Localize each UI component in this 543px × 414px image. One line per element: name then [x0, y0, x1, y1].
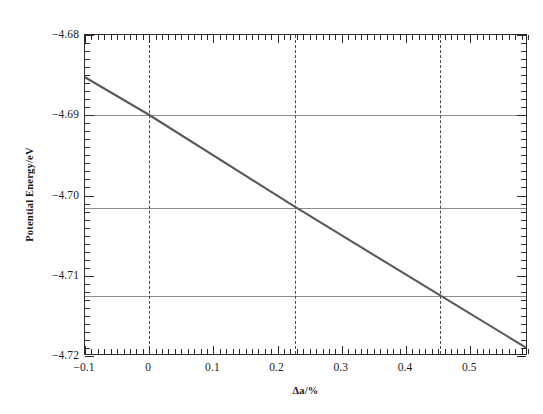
y-tick-minor [85, 212, 90, 213]
y-tick-minor [85, 67, 90, 68]
y-tick-minor [85, 51, 90, 52]
x-tick-minor [483, 349, 484, 354]
x-tick-minor-top [207, 35, 208, 40]
x-tick-minor-top [220, 35, 221, 40]
y-tick-minor-right [521, 67, 526, 68]
y-tick-minor [85, 220, 90, 221]
y-tick-minor [85, 260, 90, 261]
x-tick-minor [445, 349, 446, 354]
x-tick-minor-top [258, 35, 259, 40]
y-tick-major-right [517, 276, 526, 277]
x-tick-minor-top [489, 35, 490, 40]
x-tick-minor [477, 349, 478, 354]
x-tick-major-top [470, 35, 471, 43]
y-tick-minor-right [521, 139, 526, 140]
x-tick-minor [290, 349, 291, 354]
x-tick-minor [400, 349, 401, 354]
x-tick-minor [451, 349, 452, 354]
y-tick-minor-right [521, 236, 526, 237]
x-tick-minor-top [393, 35, 394, 40]
x-tick-minor [91, 349, 92, 354]
x-tick-minor-top [162, 35, 163, 40]
x-tick-minor-top [246, 35, 247, 40]
x-tick-minor-top [91, 35, 92, 40]
x-tick-minor-top [528, 35, 529, 40]
x-tick-minor [252, 349, 253, 354]
y-tick-minor [85, 107, 90, 108]
x-tick-minor [489, 349, 490, 354]
x-tick-minor-top [310, 35, 311, 40]
x-tick-minor [130, 349, 131, 354]
y-tick-minor-right [521, 228, 526, 229]
x-tick-minor [387, 349, 388, 354]
x-tick-major [213, 346, 214, 354]
y-tick-minor [85, 99, 90, 100]
x-tick-minor-top [419, 35, 420, 40]
x-tick-minor [207, 349, 208, 354]
y-tick-minor-right [521, 83, 526, 84]
y-tick-minor-right [521, 179, 526, 180]
y-tick-minor-right [521, 107, 526, 108]
y-tick-minor [85, 163, 90, 164]
y-tick-minor [85, 300, 90, 301]
x-tick-minor-top [297, 35, 298, 40]
x-tick-minor [329, 349, 330, 354]
x-tick-label: 0.3 [333, 361, 348, 373]
y-tick-minor-right [521, 75, 526, 76]
x-tick-minor-top [233, 35, 234, 40]
y-tick-minor [85, 316, 90, 317]
y-tick-minor [85, 268, 90, 269]
x-tick-minor [111, 349, 112, 354]
y-tick-minor-right [521, 91, 526, 92]
x-tick-minor-top [188, 35, 189, 40]
x-tick-minor [367, 349, 368, 354]
x-tick-minor [457, 349, 458, 354]
x-axis-title: Δa/% [84, 385, 527, 396]
x-tick-major-top [213, 35, 214, 43]
x-tick-minor-top [432, 35, 433, 40]
chart-screenshot: Potential Energy/eV −4.72−4.71−4.70−4.69… [0, 0, 543, 414]
y-tick-minor-right [521, 308, 526, 309]
x-tick-minor-top [477, 35, 478, 40]
x-tick-minor-top [136, 35, 137, 40]
x-tick-minor [316, 349, 317, 354]
y-tick-major [85, 356, 94, 357]
y-tick-minor [85, 252, 90, 253]
y-tick-minor [85, 292, 90, 293]
x-tick-minor-top [400, 35, 401, 40]
y-tick-minor-right [521, 59, 526, 60]
x-tick-minor [136, 349, 137, 354]
x-tick-minor-top [168, 35, 169, 40]
x-tick-minor [335, 349, 336, 354]
x-tick-minor [265, 349, 266, 354]
x-tick-minor-top [156, 35, 157, 40]
x-tick-minor [175, 349, 176, 354]
x-tick-minor-top [522, 35, 523, 40]
y-tick-minor-right [521, 204, 526, 205]
plot-area [84, 34, 527, 355]
y-tick-minor-right [521, 260, 526, 261]
y-tick-minor-right [521, 147, 526, 148]
x-tick-minor-top [509, 35, 510, 40]
y-tick-minor [85, 187, 90, 188]
x-tick-minor [528, 349, 529, 354]
y-tick-minor-right [521, 155, 526, 156]
x-tick-minor-top [361, 35, 362, 40]
x-tick-minor [419, 349, 420, 354]
x-tick-major [85, 346, 86, 354]
x-tick-minor-top [316, 35, 317, 40]
x-tick-minor [303, 349, 304, 354]
y-tick-minor-right [521, 187, 526, 188]
y-tick-minor-right [521, 324, 526, 325]
x-tick-minor [438, 349, 439, 354]
y-tick-major [85, 276, 94, 277]
x-tick-minor-top [239, 35, 240, 40]
x-tick-label: 0 [145, 361, 151, 373]
x-tick-minor [509, 349, 510, 354]
x-tick-minor-top [374, 35, 375, 40]
x-tick-major-top [342, 35, 343, 43]
x-tick-major [278, 346, 279, 354]
x-tick-minor [220, 349, 221, 354]
x-tick-minor [188, 349, 189, 354]
x-tick-major [149, 346, 150, 354]
